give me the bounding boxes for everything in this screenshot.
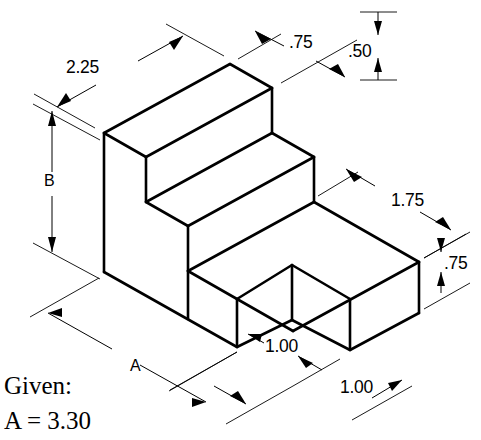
given-note: Given: A = 3.30 (4, 372, 91, 434)
arrowhead-1-75-right (435, 217, 451, 230)
arrowhead-A-left (48, 308, 62, 317)
given-label: Given: (4, 372, 72, 399)
dim-label-B: B (44, 172, 55, 189)
arrowhead-top-75-right (329, 64, 345, 77)
dim-label-top-75: .75 (289, 32, 312, 52)
ext-line-right-75-b (424, 283, 470, 309)
ext-line-B-top (33, 104, 100, 140)
arrowhead-bottom-1-00-right (388, 380, 402, 391)
ext-line-A-right (169, 352, 237, 391)
dimension-50: .50 (348, 12, 397, 80)
dimension-top-75: .75 (238, 31, 357, 83)
dim-label-2-25: 2.25 (66, 57, 99, 77)
arrowhead-50-top (374, 21, 382, 35)
arrowhead-right-75-bottom (437, 272, 445, 286)
arrowhead-B-top (48, 111, 56, 126)
dimension-B: B (33, 104, 100, 279)
ext-line-notch-b (226, 386, 293, 424)
arrowhead-A-right (192, 398, 206, 407)
arrowhead-B-bottom (48, 237, 56, 252)
dim-label-A: A (130, 357, 141, 374)
ext-line-B-bottom (33, 243, 100, 279)
dim-label-50: .50 (348, 41, 372, 61)
arrowhead-2-25-right (169, 36, 183, 50)
ext-line-A-left (30, 278, 99, 317)
dim-label-right-75: .75 (444, 253, 467, 273)
given-value: A = 3.30 (4, 407, 91, 434)
technical-drawing-canvas: 2.25 .75 .50 (0, 0, 481, 440)
dim-label-notch-1-00: 1.00 (265, 336, 298, 356)
dim-line-A-right (140, 365, 206, 402)
dimension-right-75: .75 (424, 232, 470, 309)
dim-line-A-left (48, 313, 112, 349)
dim-label-1-75: 1.75 (391, 190, 424, 210)
arrowhead-1-75-left (346, 169, 362, 182)
arrowhead-50-bottom (374, 58, 382, 72)
arrowhead-notch-lower (230, 391, 246, 404)
dim-label-bottom-1-00: 1.00 (340, 377, 373, 397)
arrowhead-2-25-left (57, 93, 71, 107)
isometric-drawing: 2.25 .75 .50 (0, 0, 481, 440)
